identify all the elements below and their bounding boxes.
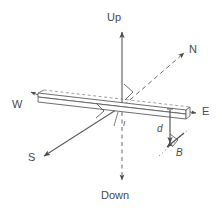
label-up: Up (107, 12, 121, 23)
current-rod (31, 90, 196, 119)
label-current: I (123, 120, 125, 128)
label-down: Down (101, 190, 129, 201)
right-angle-up-north (124, 84, 133, 100)
axis-north-line (124, 53, 184, 105)
label-west: W (12, 99, 22, 110)
field-guide-line (159, 129, 189, 156)
figure-canvas: Up Down N S W E I d B (0, 0, 222, 213)
rod-west-tip (31, 92, 38, 95)
rod-east-tip (190, 112, 196, 113)
label-field: B (176, 148, 183, 158)
label-south: S (28, 152, 35, 163)
current-tick (114, 112, 118, 126)
axis-south-line (44, 108, 119, 156)
current-indicator (114, 112, 118, 126)
label-north: N (189, 44, 197, 55)
axis-south (44, 108, 119, 156)
axis-north (124, 53, 184, 105)
physics-diagram-svg (0, 0, 222, 213)
field-B (159, 129, 189, 156)
label-distance: d (157, 124, 163, 134)
label-east: E (202, 106, 209, 117)
rod-west-depth-edge (38, 90, 44, 93)
rod-east-cap (186, 107, 190, 119)
